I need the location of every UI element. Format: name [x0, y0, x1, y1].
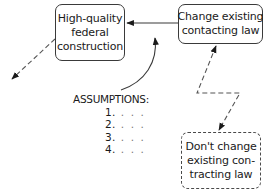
- assumptions-title: ASSUMPTIONS:: [66, 93, 156, 106]
- node-label-line: contacting law: [182, 24, 260, 38]
- node-label-line: Don't change: [185, 140, 256, 154]
- node-label-line: existing con-: [187, 154, 255, 168]
- node-label-line: High-quality: [58, 12, 122, 26]
- arrow-zigzag-dashed: [197, 46, 240, 130]
- assumption-item: 3.. . .: [66, 131, 156, 144]
- node-label-line: construction: [57, 40, 123, 54]
- assumption-item: 4.. . .: [66, 143, 156, 156]
- arrow-assumptions-curve: [121, 38, 155, 90]
- node-label-line: federal: [71, 26, 108, 40]
- assumption-number: 4.: [105, 143, 116, 155]
- assumption-text: . . .: [121, 131, 146, 143]
- assumptions-list: ASSUMPTIONS: 1.. . . 2.. . . 3.. . . 4..…: [66, 93, 156, 156]
- node-high-quality-federal-construction: High-quality federal construction: [55, 4, 125, 61]
- assumption-text: . . .: [121, 143, 146, 155]
- node-label-line: tracting law: [190, 168, 253, 182]
- node-dont-change-law: Don't change existing con- tracting law: [181, 132, 261, 189]
- assumption-number: 1.: [105, 106, 116, 118]
- arrow-hq-dashed-outgoing: [12, 39, 55, 79]
- node-change-existing-law: Change existing contacting law: [178, 4, 263, 44]
- assumption-item: 2.. . .: [66, 118, 156, 131]
- assumption-text: . . .: [121, 118, 146, 130]
- node-label-line: Change existing: [178, 10, 264, 24]
- assumption-number: 3.: [105, 131, 116, 143]
- assumption-text: . . .: [121, 106, 146, 118]
- assumption-number: 2.: [105, 118, 116, 130]
- assumption-item: 1.. . .: [66, 106, 156, 119]
